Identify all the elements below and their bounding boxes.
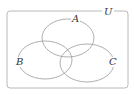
set-a-ellipse (42, 19, 94, 57)
set-a-label: A (71, 13, 79, 24)
set-c-label: C (109, 56, 117, 67)
set-c-ellipse (60, 44, 114, 82)
universe-label: U (104, 6, 113, 17)
set-b-label: B (15, 56, 23, 67)
venn-diagram: U A B C (0, 0, 134, 94)
